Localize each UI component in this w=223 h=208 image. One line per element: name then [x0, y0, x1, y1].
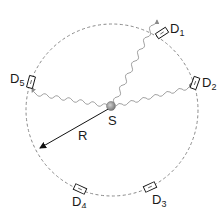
detector-d4: [73, 184, 86, 195]
wavy-path-d2: [116, 86, 193, 106]
diagram-canvas: D1 D2 D3 D4 D5 S R: [0, 0, 223, 208]
wavy-path-d1: [113, 20, 157, 103]
label-d5: D5: [10, 72, 24, 88]
label-radius: R: [78, 129, 87, 142]
detector-d1: [155, 27, 168, 39]
label-d1: D1: [170, 22, 184, 38]
label-source: S: [108, 114, 117, 127]
label-d4: D4: [72, 195, 86, 208]
detector-d3: [143, 182, 156, 193]
label-d3: D3: [152, 193, 166, 208]
diagram-svg: [0, 0, 223, 208]
detector-d5: [27, 75, 36, 88]
wavy-path-d5: [32, 91, 108, 106]
source-sphere: [107, 102, 116, 111]
label-d2: D2: [202, 76, 216, 92]
radius-arrow: [40, 108, 110, 148]
